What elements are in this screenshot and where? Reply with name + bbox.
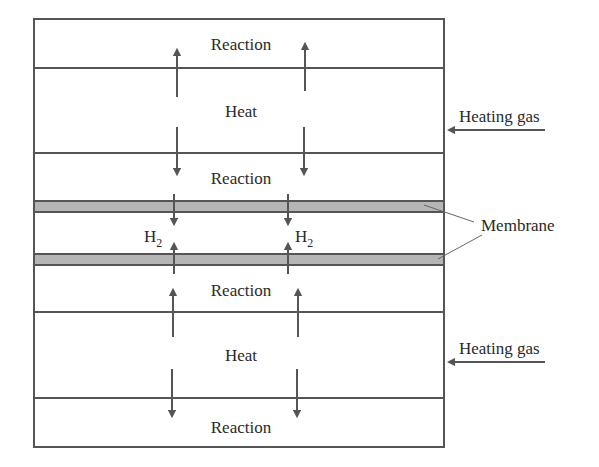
heat-label: Heat [225, 346, 257, 365]
heating-gas-label: Heating gas [459, 339, 540, 358]
heating-gas-label: Heating gas [459, 107, 540, 126]
reaction-label: Reaction [211, 35, 272, 54]
membrane-leader-line [424, 205, 474, 222]
membrane-reactor-diagram: Reaction Heat Reaction H2 H2 Reaction He… [0, 0, 599, 467]
heat-label: Heat [225, 102, 257, 121]
reaction-label: Reaction [211, 281, 272, 300]
h2-label-right: H2 [295, 227, 313, 250]
reaction-label: Reaction [211, 169, 272, 188]
membrane-lower [34, 254, 444, 265]
membrane-label: Membrane [481, 216, 555, 235]
h2-label-left: H2 [144, 227, 162, 250]
reactor-outline [34, 19, 444, 447]
reaction-label: Reaction [211, 418, 272, 437]
membrane-upper [34, 201, 444, 212]
